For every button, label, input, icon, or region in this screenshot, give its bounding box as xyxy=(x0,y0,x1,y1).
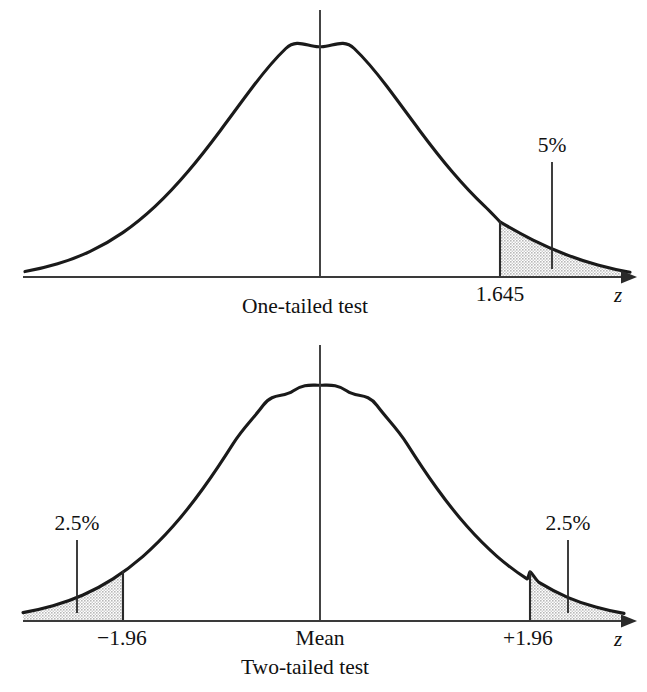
panel-two-tailed: 2.5% 2.5% −1.96 Mean +1.96 z Two-tailed … xyxy=(23,345,637,679)
tick-label-plus-196: +1.96 xyxy=(503,626,553,650)
tick-label-1645: 1.645 xyxy=(476,282,524,306)
shaded-tail-right-25pct xyxy=(530,572,624,621)
caption-two-tailed-test: Two-tailed test xyxy=(241,655,369,679)
x-axis-arrowhead-two-tailed xyxy=(621,615,637,628)
label-5-percent: 5% xyxy=(538,133,567,157)
axis-label-z-one-tailed: z xyxy=(613,283,622,307)
normal-curve-one-tailed xyxy=(25,43,630,272)
statistics-figure: 5% 1.645 z One-tailed test 2.5% 2.5% −1.… xyxy=(0,0,647,692)
tick-label-minus-196: −1.96 xyxy=(97,626,147,650)
shaded-tail-left-25pct xyxy=(23,572,123,621)
caption-one-tailed-test: One-tailed test xyxy=(242,294,368,318)
label-left-25-percent: 2.5% xyxy=(55,511,100,535)
panel-one-tailed: 5% 1.645 z One-tailed test xyxy=(23,10,637,318)
label-right-25-percent: 2.5% xyxy=(546,511,591,535)
axis-label-z-two-tailed: z xyxy=(613,627,622,651)
center-label-mean: Mean xyxy=(296,626,345,650)
